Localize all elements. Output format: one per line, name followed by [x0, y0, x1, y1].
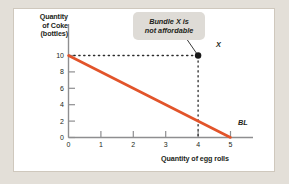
- y-tick-label-2: 2: [50, 118, 64, 125]
- x-axis-title: Quantity of egg rolls: [140, 155, 250, 164]
- x-tick-label-5: 5: [225, 141, 237, 148]
- point-x-marker: [195, 52, 201, 58]
- x-tick-label-2: 2: [127, 141, 139, 148]
- budget-line-label: BL: [238, 118, 248, 127]
- y-tick-label-8: 8: [50, 68, 64, 75]
- axis-lines: [69, 24, 254, 138]
- y-tick-label-6: 6: [50, 85, 64, 92]
- y-tick-label-4: 4: [50, 101, 64, 108]
- point-x-label: X: [216, 40, 221, 49]
- y-axis-ticks: [69, 56, 76, 138]
- y-tick-label-0: 0: [50, 134, 64, 141]
- x-tick-label-0: 0: [63, 141, 75, 148]
- budget-line-series: [69, 56, 231, 138]
- y-tick-label-10: 10: [50, 52, 64, 59]
- bundle-x-callout: Bundle X is not affordable: [133, 12, 205, 40]
- x-tick-label-3: 3: [160, 141, 172, 148]
- callout-line-1: Bundle X is: [149, 17, 189, 26]
- y-axis-title-line-3: (bottles): [22, 30, 68, 39]
- y-axis-title: Quantity of Coke (bottles): [22, 13, 68, 39]
- x-tick-label-4: 4: [192, 141, 204, 148]
- x-tick-label-1: 1: [95, 141, 107, 148]
- figure-background: Quantity of Coke (bottles) Quantity of e…: [0, 0, 289, 184]
- x-axis-ticks: [101, 131, 231, 138]
- callout-leader-line: [186, 38, 197, 54]
- callout-line-2: not affordable: [145, 26, 194, 35]
